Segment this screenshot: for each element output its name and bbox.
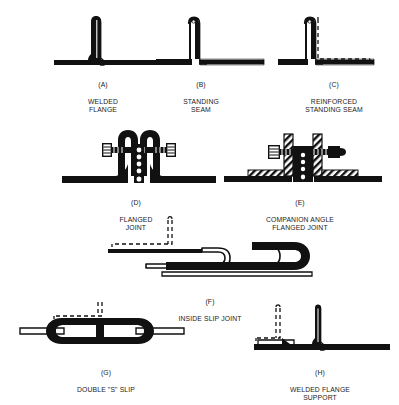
figure-c-drawing [278,14,392,70]
figure-f-profile [108,217,312,276]
figure-c-reinforced-standing-seam [278,14,392,70]
figure-g-double-s-slip [18,300,190,356]
figure-a-profile [54,16,168,65]
figure-g-drawing [18,300,190,356]
figure-h-caption: (H) WELDED FLANGE SUPPORT [263,360,377,403]
figure-b-drawing [156,14,266,70]
figure-g-tag: (G) [101,368,111,377]
figure-a-tag: (A) [98,80,107,89]
figure-b-label: STANDING SEAM [183,97,219,115]
figure-f-drawing [106,216,322,286]
figure-c-label: REINFORCED STANDING SEAM [305,97,363,115]
figure-h-tag: (H) [315,368,325,377]
figure-e-profile [224,134,382,182]
figure-g-profile [20,302,184,344]
figure-h-label: WELDED FLANGE SUPPORT [290,385,350,403]
figure-c-reinforcing-angle [318,19,370,59]
figure-d-profile [62,130,216,183]
figure-c-profile [278,17,374,65]
figure-b-profile [156,17,264,65]
figure-b-caption: (B) STANDING SEAM [169,72,233,115]
figure-d-tag: (D) [131,198,141,207]
figure-h-welded-flange-support [252,304,392,356]
figure-b-standing-seam [156,14,266,70]
figure-a-drawing [52,14,170,70]
figure-a-label: WELDED FLANGE [88,97,118,115]
figure-a-caption: (A) WELDED FLANGE [71,72,135,115]
figure-d-flanged-joint [60,124,218,186]
figure-c-tag: (C) [329,80,339,89]
figure-g-reinforcing-angle [54,302,102,316]
figure-e-drawing [222,124,384,186]
figure-h-drawing [252,304,392,356]
figure-f-inside-slip-joint [106,216,322,286]
figure-e-companion-angle-flanged-joint [222,124,384,186]
figure-g-caption: (G) DOUBLE "S" SLIP [49,360,163,394]
figure-e-tag: (E) [295,198,304,207]
figure-h-profile [254,305,390,350]
figure-f-tag: (F) [205,297,214,306]
figure-c-caption: (C) REINFORCED STANDING SEAM [290,72,378,115]
figure-g-label: DOUBLE "S" SLIP [77,385,135,394]
figure-b-tag: (B) [196,80,205,89]
joint-types-diagram: (A) WELDED FLANGE [0,0,399,405]
figure-d-drawing [60,124,218,186]
figure-f-reinforcing-angle [112,220,172,244]
figure-a-welded-flange [52,14,170,70]
